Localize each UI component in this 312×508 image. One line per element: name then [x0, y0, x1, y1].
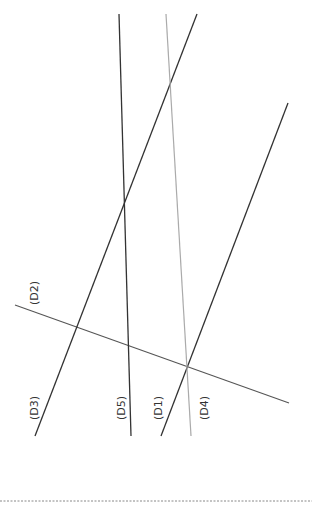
label-d3: (D3) — [28, 396, 41, 420]
line-d3 — [35, 14, 197, 436]
label-d5: (D5) — [115, 396, 128, 420]
label-d1: (D1) — [152, 396, 165, 420]
line-d2 — [15, 305, 289, 403]
geometry-diagram: (D2)(D3)(D5)(D1)(D4) — [0, 0, 312, 508]
line-d1 — [161, 103, 288, 436]
line-d4 — [166, 14, 191, 436]
label-d2: (D2) — [28, 281, 41, 305]
label-d4: (D4) — [198, 396, 211, 420]
line-d5 — [119, 14, 131, 436]
